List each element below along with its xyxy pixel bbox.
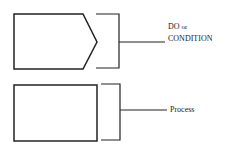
do-condition-bracket (96, 14, 119, 68)
do-condition-shape (14, 14, 97, 69)
process-label: Process (170, 105, 194, 115)
process-bracket (101, 84, 120, 140)
process-shape (14, 85, 97, 141)
or-text: or (182, 23, 188, 31)
do-text: DO (168, 22, 180, 31)
do-condition-label-line2: CONDITION (168, 34, 212, 44)
diagram-canvas (0, 0, 233, 151)
do-condition-label-line1: DO or (168, 22, 187, 32)
